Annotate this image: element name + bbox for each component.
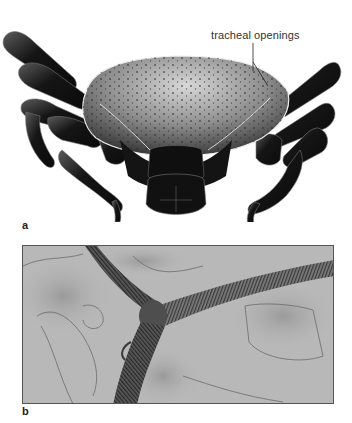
panel-label-a: a xyxy=(22,219,28,231)
figure-panel-b xyxy=(22,245,334,404)
callout-tracheal-openings: tracheal openings xyxy=(211,29,300,41)
figure-panel-a: tracheal openings xyxy=(0,0,352,222)
trachea-micrograph xyxy=(23,246,334,404)
panel-label-b: b xyxy=(22,405,29,417)
